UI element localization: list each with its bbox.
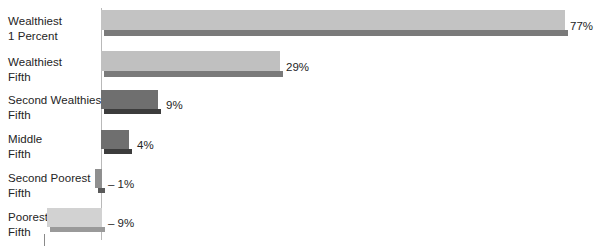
bar-front-face	[104, 109, 161, 114]
bar-top-face	[101, 10, 565, 30]
bar-front-face	[50, 227, 105, 232]
bar-second-poorest-fifth	[95, 169, 102, 195]
value-label-wealthiest-fifth: 29%	[286, 61, 309, 73]
bar-wealthiest-1-percent	[101, 10, 565, 38]
bar-chart: Wealthiest 1 Percent 77% Wealthiest Fift…	[0, 0, 601, 248]
category-label-second-poorest-fifth: Second Poorest Fifth	[8, 171, 91, 200]
value-label-second-poorest-fifth: – 1%	[108, 178, 134, 190]
bar-wealthiest-fifth	[101, 51, 280, 79]
category-label-second-wealthiest-fifth: Second Wealthiest Fifth	[8, 93, 105, 122]
value-label-middle-fifth: 4%	[137, 139, 154, 151]
category-label-poorest-fifth: Poorest Fifth	[8, 210, 48, 239]
bar-top-face	[95, 169, 102, 188]
bar-middle-fifth	[101, 130, 129, 156]
category-label-wealthiest-fifth: Wealthiest Fifth	[8, 55, 62, 84]
value-label-poorest-fifth: – 9%	[108, 217, 134, 229]
bar-top-face	[47, 208, 102, 227]
bar-top-face	[101, 130, 129, 149]
category-label-middle-fifth: Middle Fifth	[8, 132, 42, 161]
bar-top-face	[101, 90, 158, 109]
bar-front-face	[104, 149, 132, 154]
value-label-second-wealthiest-fifth: 9%	[166, 99, 183, 111]
bar-front-face	[104, 71, 283, 77]
category-label-wealthiest-1-percent: Wealthiest 1 Percent	[8, 14, 62, 43]
bar-poorest-fifth	[47, 208, 102, 234]
bar-top-face	[101, 51, 280, 71]
bar-front-face	[104, 30, 568, 36]
value-label-wealthiest-1-percent: 77%	[570, 20, 593, 32]
bar-second-wealthiest-fifth	[101, 90, 158, 116]
bar-front-face	[98, 188, 105, 193]
zero-axis-line	[101, 8, 102, 240]
